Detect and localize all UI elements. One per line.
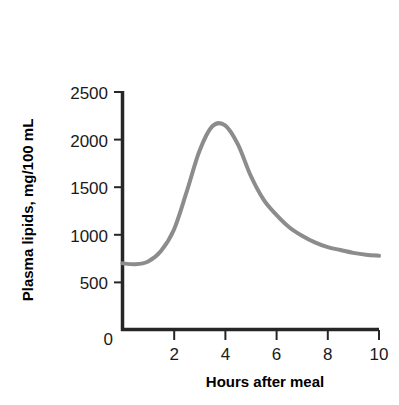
plasma-lipids-line-chart: 2500 2000 1500 1000 500 0 2 4 6 8 10 Hou… [0,0,399,405]
chart-background [0,0,399,405]
y-tick-label-1000: 1000 [70,227,108,246]
y-tick-label-500: 500 [80,274,108,293]
x-axis-title: Hours after meal [206,373,324,390]
y-axis-title: Plasma lipids, mg/100 mL [19,119,36,302]
x-tick-label-2: 2 [169,345,178,364]
x-tick-label-4: 4 [221,345,230,364]
y-tick-label-2500: 2500 [70,84,108,103]
chart-figure: 2500 2000 1500 1000 500 0 2 4 6 8 10 Hou… [0,0,399,405]
x-tick-label-8: 8 [323,345,332,364]
y-tick-label-0: 0 [104,330,113,349]
y-tick-label-1500: 1500 [70,179,108,198]
y-tick-label-2000: 2000 [70,132,108,151]
x-tick-label-6: 6 [272,345,281,364]
x-tick-label-10: 10 [370,345,389,364]
